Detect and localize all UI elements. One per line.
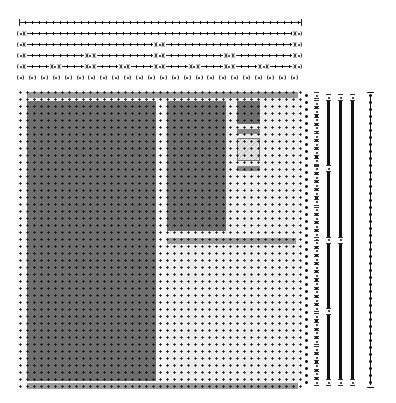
- ruler-cell: [196, 74, 203, 81]
- ruler-cell: [184, 74, 191, 81]
- ruler-separator: [295, 41, 302, 48]
- ruler-separator: [337, 94, 344, 101]
- ruler-separator: [325, 165, 332, 172]
- ruler-segment: [163, 63, 191, 70]
- ruler-separator: [17, 63, 24, 70]
- ruler-separator: [260, 63, 267, 70]
- ruler-separator: [226, 52, 233, 59]
- ruler-separator: [337, 237, 344, 244]
- horizontal-ruler-row: [17, 63, 302, 70]
- ruler-cell: [124, 74, 131, 81]
- ruler-separator: [295, 52, 302, 59]
- ruler-separator: [226, 63, 233, 70]
- ruler-separator: [156, 41, 163, 48]
- ruler-segment: [24, 63, 52, 70]
- vertical-ruler-column: [349, 92, 356, 388]
- ruler-cell: [172, 74, 179, 81]
- ruler-segment: [24, 52, 87, 59]
- ruler-separator: [87, 52, 94, 59]
- ruler-cell: [17, 74, 24, 81]
- ruler-separator: [17, 52, 24, 59]
- ruler-cell: [207, 74, 214, 81]
- ruler-separator: [156, 52, 163, 59]
- ruler-cell: [279, 74, 286, 81]
- ruler-separator: [325, 94, 332, 101]
- horizontal-ruler-row: [17, 52, 302, 59]
- ruler-cell: [231, 74, 238, 81]
- ruler-segment: [24, 41, 156, 48]
- ruler-separator: [325, 237, 332, 244]
- ruler-separator: [295, 30, 302, 37]
- ruler-separator: [325, 308, 332, 315]
- ruler-cell: [148, 74, 155, 81]
- ruler-separator: [191, 63, 198, 70]
- ruler-separator: [17, 30, 24, 37]
- ruler-segment: [267, 63, 295, 70]
- ruler-cell: [65, 74, 72, 81]
- ruler-cell: [29, 74, 36, 81]
- ruler-segment: [94, 52, 157, 59]
- ruler-cell: [136, 74, 143, 81]
- ruler-cell: [243, 74, 250, 81]
- ruler-cell: [291, 74, 298, 81]
- ruler-cell: [219, 74, 226, 81]
- ruler-segment: [233, 52, 296, 59]
- vertical-ruler-column: [313, 92, 320, 388]
- ruler-cell: [41, 74, 48, 81]
- ruler-separator: [349, 379, 356, 386]
- ruler-cell: [53, 74, 60, 81]
- ruler-segment: [128, 63, 156, 70]
- ruler-separator: [349, 94, 356, 101]
- vertical-ruler-column: [337, 92, 344, 388]
- ruler-segment: [198, 63, 226, 70]
- ruler-separator: [295, 63, 302, 70]
- vertical-ruler-column: [303, 92, 310, 388]
- ruler-segment: [59, 63, 87, 70]
- ruler-segment: [163, 41, 295, 48]
- vertical-ruler-column: [367, 92, 374, 388]
- ruler-segment: [233, 63, 261, 70]
- ruler-separator: [52, 63, 59, 70]
- ruler-segment: [163, 52, 226, 59]
- horizontal-ruler-row: [17, 41, 302, 48]
- ruler-segment: [24, 30, 295, 37]
- ruler-separator: [87, 63, 94, 70]
- ruler-cell: [100, 74, 107, 81]
- horizontal-ruler-row: [17, 30, 302, 37]
- ruler-cell: [88, 74, 95, 81]
- ruler-cell: [160, 74, 167, 81]
- horizontal-ruler-full: [19, 19, 302, 26]
- grid-dots: [17, 89, 302, 390]
- ruler-separator: [156, 63, 163, 70]
- ruler-separator: [121, 63, 128, 70]
- ruler-cell: [255, 74, 262, 81]
- ruler-cell: [267, 74, 274, 81]
- ruler-cell: [77, 74, 84, 81]
- vertical-ruler-column: [325, 92, 332, 388]
- horizontal-ruler-row: [17, 74, 302, 81]
- ruler-separator: [17, 41, 24, 48]
- ruler-separator: [337, 379, 344, 386]
- ruler-separator: [325, 379, 332, 386]
- ruler-cell: [112, 74, 119, 81]
- ruler-segment: [94, 63, 122, 70]
